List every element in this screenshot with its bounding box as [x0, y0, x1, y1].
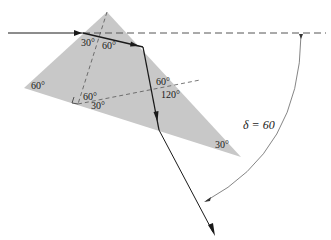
label-corner-left: 60° — [31, 81, 45, 91]
label-corner-bottom-right: 30° — [215, 140, 229, 150]
exit-arrow-icon — [208, 223, 215, 236]
label-perp-lower: 30° — [91, 101, 105, 111]
arc-arrow-top-icon — [299, 34, 303, 39]
label-entry-right: 60° — [102, 41, 116, 51]
prism — [24, 12, 241, 157]
incident-arrow-icon — [74, 30, 82, 36]
label-entry-left: 30° — [81, 38, 95, 48]
label-reflect-lower: 120° — [161, 90, 180, 100]
label-reflect-upper: 60° — [156, 77, 170, 87]
prism-diagram — [0, 0, 331, 240]
deviation-label: δ = 60 — [243, 118, 275, 133]
arc-arrow-bottom-icon — [204, 197, 211, 202]
